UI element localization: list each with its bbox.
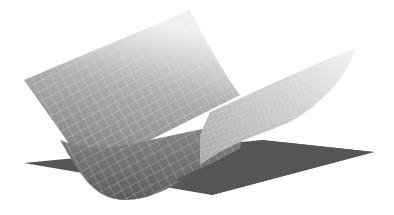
surface-plot-figure [0,0,394,215]
surface-plot-canvas [0,0,394,215]
